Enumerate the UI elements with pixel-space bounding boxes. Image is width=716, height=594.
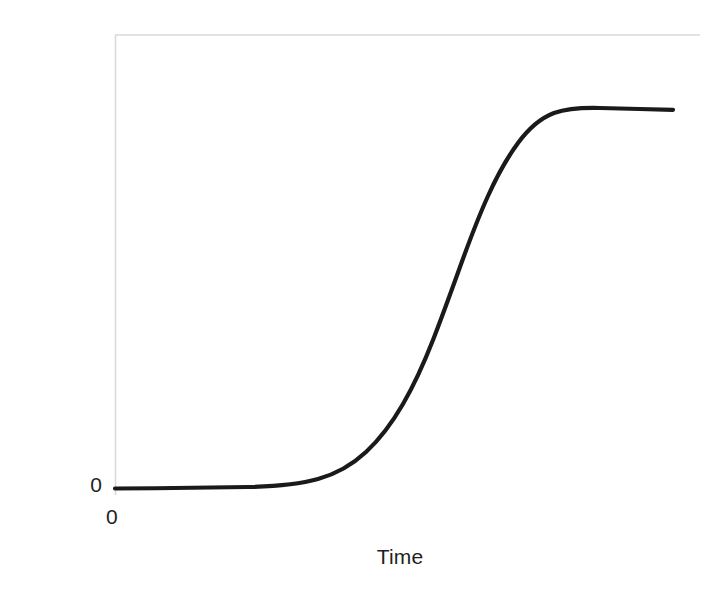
x-axis-tick-label-0: 0 [106,505,130,529]
x-axis-title: Time [340,545,460,569]
chart-figure: Diffusion Time 0 0 [0,0,716,594]
y-axis-tick-label-0: 0 [78,473,102,497]
